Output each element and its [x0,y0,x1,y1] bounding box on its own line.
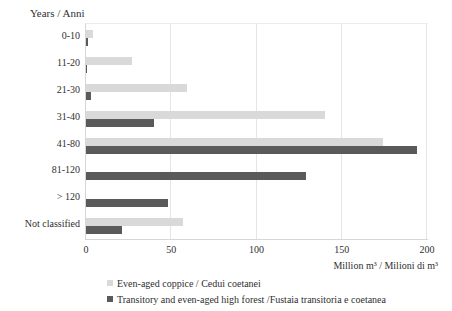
bar-row-5 [86,158,428,185]
bar-series0-0 [86,30,93,38]
x-tick-label-100: 100 [249,244,264,255]
legend-item-1: Transitory and even-aged high forest /Fu… [107,291,386,307]
bar-series0-3 [86,111,325,119]
legend-swatch-0 [107,280,113,286]
x-tick-label-200: 200 [420,244,435,255]
bar-rows [86,24,428,239]
x-axis-tick-labels: 050100150200 [0,244,452,258]
x-tick-label-50: 50 [166,244,176,255]
bar-series1-1 [86,65,87,73]
bar-series0-4 [86,138,383,146]
legend-item-0: Even-aged coppice / Cedui coetanei [107,275,386,291]
category-label-1: 11-20 [0,50,80,77]
legend-label-0: Even-aged coppice / Cedui coetanei [117,278,261,289]
x-axis-label: Million m³ / Milioni di m³ [333,260,438,271]
bar-row-0 [86,24,428,51]
legend-label-1: Transitory and even-aged high forest /Fu… [117,294,386,305]
category-label-7: Not classified [0,211,80,238]
category-label-3: 31-40 [0,104,80,131]
bar-row-3 [86,105,428,132]
legend: Even-aged coppice / Cedui coetaneiTransi… [107,275,386,307]
bar-series0-7 [86,218,183,226]
bar-series0-1 [86,57,132,65]
category-label-0: 0-10 [0,23,80,50]
bar-series1-3 [86,119,154,127]
bar-row-2 [86,78,428,105]
y-axis-category-labels: 0-1011-2021-3031-4041-8081-120> 120Not c… [0,23,80,240]
category-label-2: 21-30 [0,77,80,104]
x-tick-label-150: 150 [334,244,349,255]
bar-series1-4 [86,146,417,154]
bar-row-4 [86,132,428,159]
category-label-5: 81-120 [0,157,80,184]
plot-area [85,23,428,240]
bar-series1-6 [86,199,168,207]
x-tick-label-0: 0 [84,244,89,255]
chart-title: Years / Anni [30,7,85,19]
bar-row-1 [86,51,428,78]
bar-chart: Years / Anni 0-1011-2021-3031-4041-8081-… [0,0,452,311]
legend-swatch-1 [107,296,113,302]
bar-series1-5 [86,172,306,180]
bar-series1-7 [86,226,122,234]
bar-row-6 [86,185,428,212]
bar-row-7 [86,212,428,239]
bar-series0-2 [86,84,187,92]
bar-series1-0 [86,38,88,46]
bar-series1-2 [86,92,91,100]
category-label-6: > 120 [0,184,80,211]
category-label-4: 41-80 [0,131,80,158]
